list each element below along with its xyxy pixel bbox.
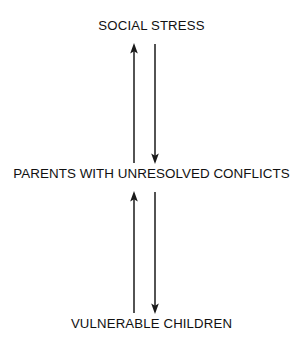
arrow-bottom-to-middle (130, 191, 138, 313)
node-label-parents-with-unresolved-conflicts: PARENTS WITH UNRESOLVED CONFLICTS (0, 167, 303, 181)
influence-diagram: SOCIAL STRESS PARENTS WITH UNRESOLVED CO… (0, 0, 303, 349)
arrow-middle-to-bottom (151, 192, 159, 314)
arrow-top-to-middle (151, 44, 159, 164)
node-label-vulnerable-children: VULNERABLE CHILDREN (0, 317, 303, 331)
arrow-middle-to-top (130, 43, 138, 163)
node-label-social-stress: SOCIAL STRESS (0, 19, 303, 33)
